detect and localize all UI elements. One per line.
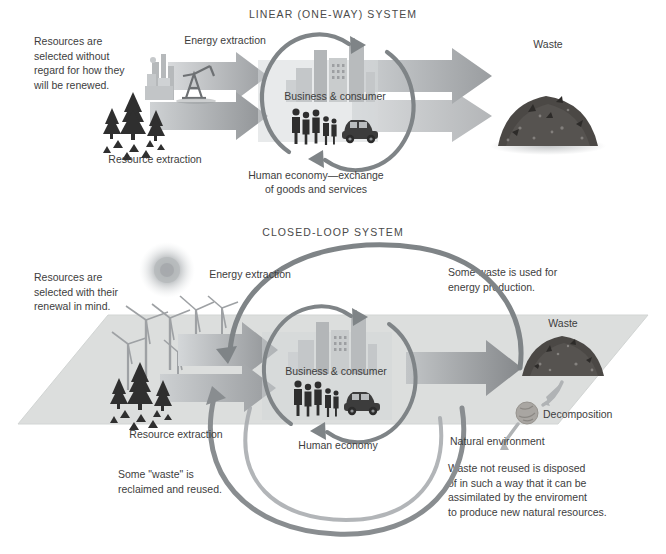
closed-loop-system-panel: CLOSED-LOOP SYSTEM Resources are selecte… [0,212,666,554]
waste-pile-icon [498,96,598,146]
oil-refinery-icon [145,54,174,100]
closed-loop-system-graphic [0,212,666,554]
closed-natural-environment-label: Natural environment [450,434,600,448]
closed-resource-extraction-label: Resource extraction [106,427,246,441]
linear-resource-extraction-label: Resource extraction [90,152,220,166]
linear-human-economy-label: Human economy—exchange of goods and serv… [218,168,414,196]
closed-human-economy-label: Human economy [276,438,400,452]
closed-energy-extraction-label: Energy extraction [185,267,315,281]
linear-energy-extraction-label: Energy extraction [165,33,285,47]
closed-waste-label: Waste [520,316,606,330]
linear-business-consumer-label: Business & consumer [272,89,398,103]
closed-decomposition-label: Decomposition [543,407,653,421]
linear-waste-label: Waste [505,37,591,51]
linear-system-panel: LINEAR (ONE-WAY) SYSTEM Resources are se… [0,0,666,212]
decomposition-icon [516,402,538,424]
closed-business-consumer-label: Business & consumer [272,364,400,378]
closed-reclaim-loop-arc-secondary [245,408,441,520]
